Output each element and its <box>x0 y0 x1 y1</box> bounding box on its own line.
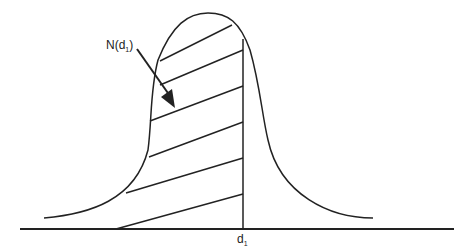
normal-distribution-diagram <box>0 0 476 252</box>
hatch-lines <box>116 25 243 229</box>
axis-label-sub: 1 <box>244 240 248 247</box>
axis-label-main: d <box>237 232 244 246</box>
axis-label-d1: d1 <box>237 232 248 247</box>
arrow-icon <box>137 49 175 108</box>
area-label-close: ) <box>129 38 133 52</box>
area-label-main: N(d <box>106 38 125 52</box>
bell-curve <box>44 13 373 218</box>
area-label: N(d1) <box>106 38 133 53</box>
